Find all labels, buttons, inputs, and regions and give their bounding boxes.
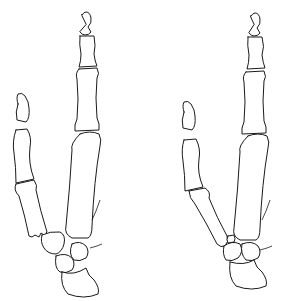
left-drawing-svg <box>0 0 145 301</box>
right-hand-bone-drawing <box>144 0 289 301</box>
right-drawing-svg <box>144 0 289 301</box>
left-hand-bone-drawing <box>0 0 145 301</box>
